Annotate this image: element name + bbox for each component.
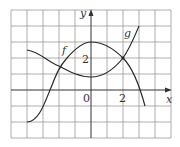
intersection-point [122, 57, 125, 60]
x-tick-label-2: 2 [119, 92, 126, 105]
graph-figure: y x 0 2 2 f g [0, 0, 180, 147]
curve-label-g: g [124, 27, 131, 40]
curve-g [27, 26, 139, 77]
curve-label-f: f [61, 44, 68, 57]
origin-label: 0 [83, 92, 90, 105]
y-axis-label: y [79, 7, 87, 20]
y-tick-label-2: 2 [82, 53, 89, 66]
x-axis-label: x [166, 93, 173, 106]
